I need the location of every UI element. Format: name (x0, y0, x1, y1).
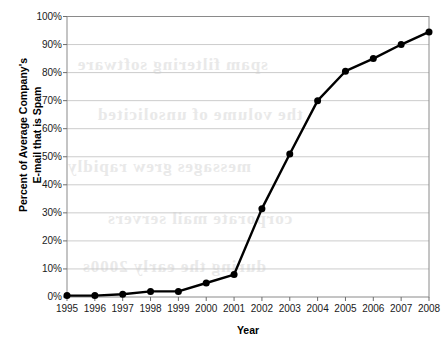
data-series-markers (64, 28, 433, 299)
data-point (119, 291, 126, 298)
data-point (342, 68, 349, 75)
data-point (314, 97, 321, 104)
spam-percentage-line-chart: spam filtering software the volume of un… (0, 0, 442, 342)
data-point (147, 288, 154, 295)
data-point (398, 41, 405, 48)
data-point (258, 205, 265, 212)
data-point (370, 55, 377, 62)
data-point (175, 288, 182, 295)
gridlines (67, 17, 429, 269)
data-point (91, 292, 98, 299)
x-axis-ticks (67, 297, 429, 301)
data-point (286, 150, 293, 157)
y-axis-ticks (63, 17, 67, 298)
data-point (203, 279, 210, 286)
plot-area (0, 0, 442, 342)
data-point (426, 28, 433, 35)
data-point (231, 271, 238, 278)
data-point (64, 292, 71, 299)
data-series-line (67, 32, 429, 296)
x-axis-title: Year (66, 324, 430, 336)
